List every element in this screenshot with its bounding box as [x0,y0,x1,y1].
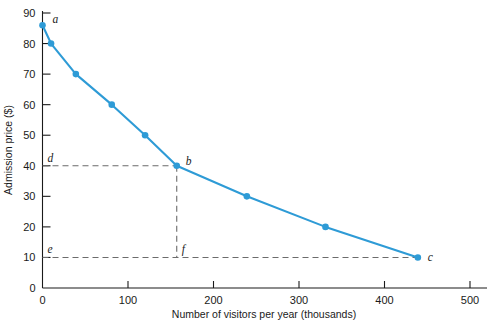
y-tick-label-70: 70 [23,68,35,80]
chart-background [0,0,497,326]
x-tick-label-200: 200 [204,294,222,306]
y-tick-label-80: 80 [23,38,35,50]
annotation-label-b: b [186,155,192,167]
annotation-label-d: d [48,152,54,164]
y-tick-label-40: 40 [23,160,35,172]
data-point [73,71,80,78]
y-tick-label-90: 90 [23,7,35,19]
x-tick-label-500: 500 [461,294,479,306]
data-point [142,132,149,139]
data-point [39,22,46,29]
x-tick-label-400: 400 [375,294,393,306]
data-point [415,254,422,261]
x-tick-label-300: 300 [290,294,308,306]
y-tick-label-10: 10 [23,251,35,263]
annotation-label-c: c [428,251,433,263]
data-point [108,101,115,108]
data-point [173,162,180,169]
y-tick-label-60: 60 [23,99,35,111]
y-axis-title: Admission price ($) [2,105,14,195]
demand-curve-chart: 0102030405060708090 0100200300400500 abc… [0,0,497,326]
chart-canvas: 0102030405060708090 0100200300400500 abc… [0,0,497,326]
data-point [48,40,55,47]
x-tick-label-0: 0 [39,294,45,306]
x-tick-label-100: 100 [119,294,137,306]
y-tick-label-20: 20 [23,221,35,233]
y-tick-label-30: 30 [23,190,35,202]
x-axis-title: Number of visitors per year (thousands) [172,308,356,320]
annotation-label-a: a [53,13,59,25]
y-tick-label-0: 0 [29,282,35,294]
data-point [322,224,329,231]
y-tick-label-50: 50 [23,129,35,141]
annotation-label-e: e [48,243,53,255]
data-point [244,193,251,200]
